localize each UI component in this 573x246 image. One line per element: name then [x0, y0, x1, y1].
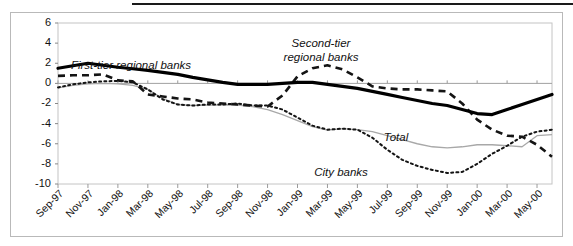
y-axis-tick-label: 0 [45, 76, 51, 88]
y-axis-tick-label: -2 [41, 96, 51, 108]
x-axis-tick-label: Jul-99 [366, 187, 395, 216]
x-axis-tick-label: Sep-98 [213, 187, 246, 220]
x-axis-tick-label: Jan-98 [94, 187, 125, 218]
series-annotation-first-tier-regional-banks: First-tier regional banks [71, 59, 191, 71]
x-axis-tick-label: Nov-97 [63, 187, 96, 220]
x-axis-tick-label: Jan-99 [274, 187, 305, 218]
y-axis-tick-label: -8 [41, 157, 51, 169]
y-axis-tick-label: -10 [35, 177, 51, 189]
x-axis-tick-label: Mar-98 [123, 187, 155, 219]
x-axis-tick-label: May-98 [152, 187, 185, 220]
x-axis-tick-label: Mar-00 [482, 187, 514, 219]
y-axis-tick-label: -6 [41, 137, 51, 149]
x-axis-tick-label: May-99 [332, 187, 365, 220]
x-axis-tick-label: Nov-99 [422, 187, 455, 220]
x-axis-tick-label: Sep-99 [392, 187, 425, 220]
x-axis-tick-label: Sep-97 [33, 187, 66, 220]
y-axis-tick-label: 4 [45, 36, 51, 48]
x-axis-tick-label: Jul-98 [186, 187, 215, 216]
chart-page: 6420-2-4-6-8-10Sep-97Nov-97Jan-98Mar-98M… [0, 0, 573, 246]
x-axis-tick-label: Mar-99 [303, 187, 335, 219]
y-axis-tick-label: 2 [45, 56, 51, 68]
x-axis-tick-label: Jan-00 [453, 187, 484, 218]
line-chart: 6420-2-4-6-8-10Sep-97Nov-97Jan-98Mar-98M… [11, 13, 562, 236]
x-axis-tick-label: Nov-98 [243, 187, 276, 220]
y-axis-tick-label: 6 [45, 16, 51, 28]
series-annotation-city-banks: City banks [314, 166, 368, 178]
top-divider-rule [132, 3, 573, 5]
x-axis-tick-label: May-00 [511, 187, 544, 220]
chart-frame: 6420-2-4-6-8-10Sep-97Nov-97Jan-98Mar-98M… [10, 12, 563, 237]
y-axis-tick-label: -4 [41, 117, 51, 129]
series-annotation-total: Total [384, 131, 409, 143]
